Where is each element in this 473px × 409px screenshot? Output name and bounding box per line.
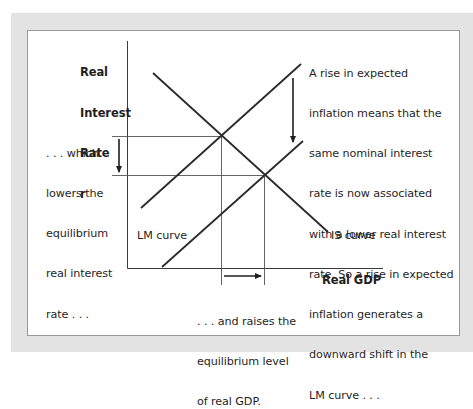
annotation-line: A rise in expected: [309, 67, 454, 80]
is-curve: [153, 73, 328, 232]
annotation-line: same nominal interest: [309, 147, 454, 160]
lm-curve-label: LM curve: [137, 229, 187, 242]
annotation-line: rate is now associated: [309, 187, 454, 200]
y-axis-label-line: Real: [80, 66, 131, 80]
annotation-line: rate . . .: [46, 308, 112, 321]
lm-shift-annotation: A rise in expected inflation means that …: [309, 40, 454, 409]
annotation-line: equilibrium level: [197, 355, 296, 368]
annotation-line: inflation generates a: [309, 308, 454, 321]
gdp-annotation: . . . and raises the equilibrium level o…: [197, 288, 296, 409]
annotation-line: lowers the: [46, 187, 112, 200]
equilibrium-guides: [112, 136, 265, 285]
annotation-line: of real GDP.: [197, 395, 296, 408]
annotation-line: inflation means that the: [309, 107, 454, 120]
annotation-line: real interest: [46, 267, 112, 280]
annotation-line: downward shift in the: [309, 348, 454, 361]
rate-annotation: . . . which lowers the equilibrium real …: [46, 120, 112, 335]
y-axis-label-line: Interest: [80, 107, 131, 121]
annotation-line: . . . which: [46, 147, 112, 160]
annotation-line: with a lower real interest: [309, 228, 454, 241]
lm-curve-shifted: [162, 141, 303, 267]
annotation-line: equilibrium: [46, 227, 112, 240]
annotation-line: . . . and raises the: [197, 315, 296, 328]
annotation-line: LM curve . . .: [309, 389, 454, 402]
annotation-line: rate. So a rise in expected: [309, 268, 454, 281]
